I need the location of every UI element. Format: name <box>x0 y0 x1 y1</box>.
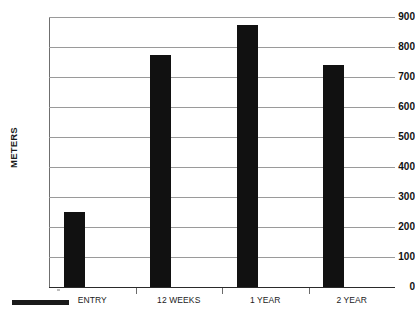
bar <box>237 25 258 287</box>
bar <box>323 65 344 287</box>
bar <box>64 212 85 287</box>
y-axis-title: METERS <box>8 113 19 183</box>
x-axis-tick-label: 2 YEAR <box>336 295 367 305</box>
x-axis-tick-mark <box>136 288 137 294</box>
x-axis-tick-mark <box>222 288 223 294</box>
scan-speck-artifact <box>57 289 60 291</box>
x-axis-tick-label: 1 YEAR <box>250 295 281 305</box>
plot-area <box>49 17 395 287</box>
gridline <box>49 17 395 18</box>
gridline <box>49 47 395 48</box>
bar <box>150 55 171 288</box>
x-axis-tick-mark <box>309 288 310 294</box>
x-axis-tick-label: 12 WEEKS <box>157 295 200 305</box>
x-axis-tick-label: ENTRY <box>78 295 107 305</box>
bar-chart-figure: METERS 9008007006005004003002001000 ENTR… <box>0 0 415 314</box>
scale-bar-artifact <box>12 300 69 305</box>
